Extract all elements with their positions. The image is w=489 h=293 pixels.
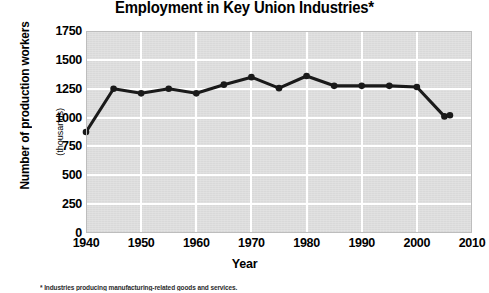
data-point-marker	[276, 85, 283, 92]
y-tick-label: 1750	[34, 24, 82, 38]
chart-container: Employment in Key Union Industries* Numb…	[0, 0, 489, 293]
data-point-marker	[303, 73, 310, 80]
x-tick-label: 1970	[221, 236, 281, 250]
data-series-line	[86, 31, 472, 233]
data-point-marker	[110, 85, 117, 92]
x-axis-title: Year	[0, 257, 489, 271]
chart-footnote: * Industries producing manufacturing-rel…	[40, 284, 480, 291]
data-point-marker	[221, 81, 228, 88]
x-tick-label: 1960	[166, 236, 226, 250]
data-point-marker	[165, 85, 172, 92]
y-tick-label: 1000	[34, 111, 82, 125]
x-tick-label: 1940	[56, 236, 116, 250]
data-point-marker	[447, 112, 454, 119]
data-point-marker	[248, 74, 255, 81]
y-tick-label: 750	[34, 139, 82, 153]
x-tick-label: 2000	[387, 236, 447, 250]
x-tick-label: 1990	[332, 236, 392, 250]
x-tick-label: 1980	[277, 236, 337, 250]
data-point-marker	[441, 113, 448, 120]
x-tick-label: 1950	[111, 236, 171, 250]
x-axis-tick-labels: 19401950196019701980199020002010	[86, 236, 472, 254]
series-polyline	[86, 76, 450, 132]
data-point-marker	[331, 83, 338, 90]
y-axis-tick-labels: 02505007501000125015001750	[30, 31, 82, 233]
data-point-marker	[358, 83, 365, 90]
y-tick-label: 500	[34, 168, 82, 182]
data-point-marker	[386, 83, 393, 90]
data-point-marker	[138, 90, 145, 97]
y-tick-label: 1250	[34, 82, 82, 96]
data-point-marker	[83, 129, 90, 136]
plot-area	[86, 31, 472, 233]
data-point-marker	[414, 84, 421, 91]
chart-title: Employment in Key Union Industries*	[17, 0, 472, 17]
y-tick-label: 1500	[34, 53, 82, 67]
data-point-marker	[193, 90, 200, 97]
x-tick-label: 2010	[442, 236, 489, 250]
y-tick-label: 250	[34, 197, 82, 211]
